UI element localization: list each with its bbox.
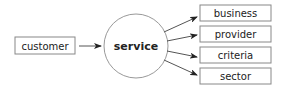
arrow-service-sector: [164, 60, 197, 75]
criteria-label: criteria: [218, 50, 253, 61]
service-node: service: [104, 14, 168, 78]
service-label: service: [114, 40, 158, 53]
criteria-node: criteria: [200, 47, 271, 63]
arrow-service-provider: [167, 35, 197, 41]
customer-label: customer: [21, 41, 69, 52]
diagram-canvas: customer service business provider crite…: [0, 0, 285, 95]
arrow-service-criteria: [167, 51, 197, 57]
provider-node: provider: [200, 26, 271, 42]
business-label: business: [214, 8, 258, 19]
arrow-service-business: [164, 17, 197, 32]
provider-label: provider: [215, 29, 258, 40]
customer-node: customer: [15, 37, 75, 54]
sector-node: sector: [200, 68, 271, 84]
sector-label: sector: [220, 71, 252, 82]
business-node: business: [200, 5, 271, 21]
